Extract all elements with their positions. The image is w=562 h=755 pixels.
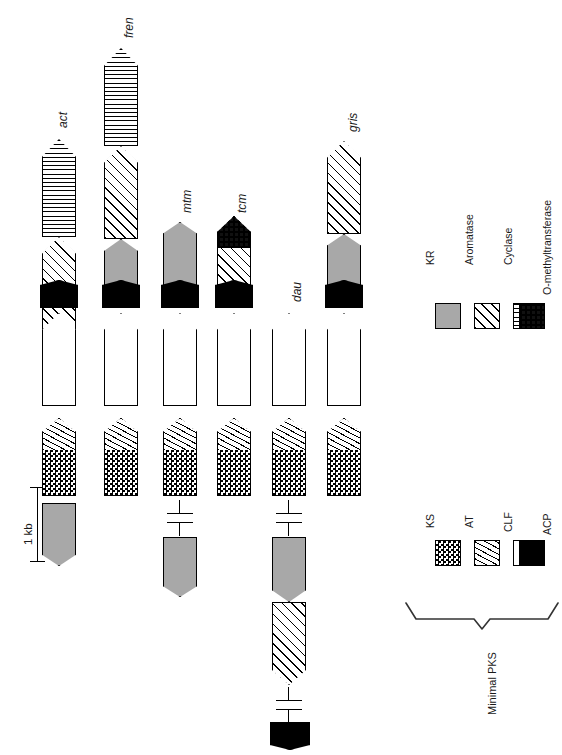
gene-act-acp xyxy=(40,280,78,308)
gene-dau-at-ks xyxy=(272,418,306,496)
gene-mtm-clf xyxy=(163,313,197,406)
legend-swatch-acp xyxy=(519,540,545,566)
gene-act-clf xyxy=(42,313,76,406)
legend-label-kr: KR xyxy=(425,250,436,265)
legend-label-acp: ACP xyxy=(542,513,553,535)
gene-fren-cyclase xyxy=(104,48,138,146)
gene-mtm-kr-2 xyxy=(163,537,197,597)
scale-bar-label: 1 kb xyxy=(23,523,35,545)
gene-mtm-acp xyxy=(161,280,199,308)
legend-swatch-kr xyxy=(435,303,461,329)
legend-swatch-aromatase xyxy=(474,303,500,329)
gene-fren-clf xyxy=(104,313,138,406)
minimal-pks-brace xyxy=(402,597,562,633)
gene-gris-at-ks xyxy=(327,418,361,496)
legend-swatch-o-methyltransferase xyxy=(519,303,545,329)
gene-gris-acp xyxy=(325,280,363,308)
gene-dau-clf xyxy=(272,313,306,406)
gene-fren-aromatase xyxy=(104,146,138,239)
cluster-label-act: act xyxy=(57,112,69,128)
cluster-label-mtm: mtm xyxy=(181,190,193,213)
gene-act-cyclase xyxy=(42,139,76,237)
gene-mtm-at-ks xyxy=(163,418,197,496)
legend-swatch-at xyxy=(474,540,500,566)
gene-dau-aromatase xyxy=(272,602,306,685)
gene-mtm-kr xyxy=(163,222,197,286)
gene-tcm-clf xyxy=(217,313,251,406)
cluster-label-gris: gris xyxy=(347,113,359,132)
legend-label-cyclase: Cyclase xyxy=(503,228,514,265)
gene-fren-at-ks xyxy=(104,418,138,496)
legend-swatch-ks xyxy=(435,540,461,566)
legend-group-label-minimal-pks: Minimal PKS xyxy=(487,652,498,715)
cluster-label-tcm: tcm xyxy=(236,194,248,213)
gene-gris-aromatase xyxy=(327,141,361,234)
cluster-label-fren: fren xyxy=(123,17,135,38)
gene-act-kr xyxy=(42,503,76,566)
legend-label-o-methyltransferase: O-methyltransferase xyxy=(542,200,553,295)
break-symbol-dau-1 xyxy=(272,500,306,536)
legend-label-aromatase: Aromatase xyxy=(464,214,475,265)
gene-gris-clf xyxy=(327,313,361,406)
gene-fren-acp xyxy=(102,280,140,308)
legend-label-ks: KS xyxy=(425,514,436,528)
gene-dau-kr xyxy=(272,537,306,602)
legend-label-at: AT xyxy=(464,515,475,528)
legend-label-clf: CLF xyxy=(503,512,514,532)
gene-dau-acp xyxy=(270,722,310,750)
cluster-label-dau: dau xyxy=(291,282,303,302)
gene-act-at-ks xyxy=(42,418,76,496)
break-symbol-mtm xyxy=(163,500,197,536)
gene-tcm-at-ks xyxy=(217,418,251,496)
gene-tcm-acp xyxy=(215,280,253,308)
break-symbol-dau-2 xyxy=(272,687,306,723)
